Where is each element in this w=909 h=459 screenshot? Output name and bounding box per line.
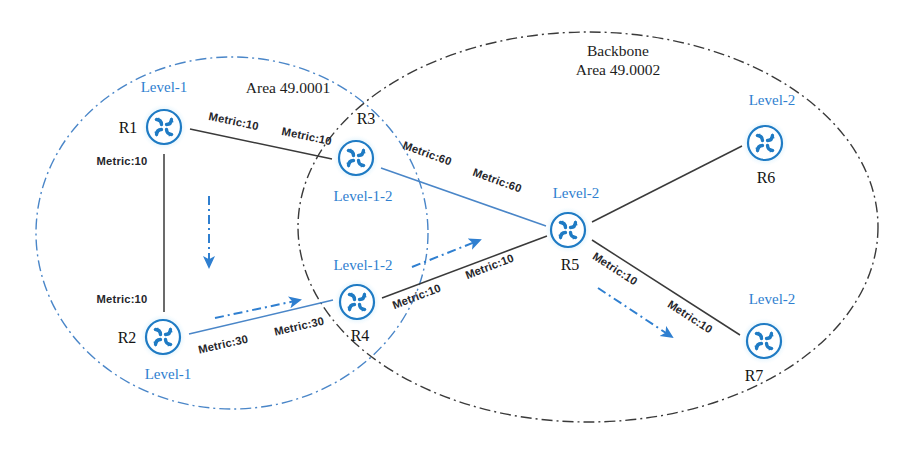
router-level-r2: Level-1 bbox=[145, 366, 192, 382]
router-icon-r5 bbox=[551, 213, 585, 247]
area-label-line: Backbone bbox=[587, 42, 649, 59]
router-node-r3[interactable] bbox=[333, 135, 379, 181]
router-icon-r2 bbox=[146, 320, 180, 354]
router-nodes bbox=[140, 104, 788, 364]
router-name-r7: R7 bbox=[745, 367, 764, 384]
router-node-r7[interactable] bbox=[741, 318, 787, 364]
router-level-r3: Level-1-2 bbox=[333, 188, 392, 204]
router-node-r2[interactable] bbox=[140, 314, 186, 360]
link-r5-r6 bbox=[592, 146, 742, 222]
router-icon-r1 bbox=[147, 110, 181, 144]
router-icon-r7 bbox=[747, 324, 781, 358]
router-node-r1[interactable] bbox=[141, 104, 187, 150]
metric-r4-r5-near-r4: Metric:10 bbox=[391, 282, 443, 311]
metric-r2-r4-near-r2: Metric:30 bbox=[197, 333, 249, 356]
router-name-r5: R5 bbox=[561, 256, 580, 273]
metric-r1-r3-near-r1: Metric:10 bbox=[208, 110, 260, 132]
router-name-r2: R2 bbox=[118, 329, 137, 346]
router-level-r7: Level-2 bbox=[749, 291, 796, 307]
router-level-r6: Level-2 bbox=[749, 92, 796, 108]
area-label-area-49-0002: BackboneArea 49.0002 bbox=[576, 42, 660, 78]
link-r5-r7 bbox=[592, 240, 740, 335]
router-icon-r6 bbox=[748, 126, 782, 160]
router-node-r6[interactable] bbox=[742, 120, 788, 166]
text-labels: Area 49.0001BackboneArea 49.0002R1Level-… bbox=[97, 42, 796, 384]
metric-r1-r2-bottom: Metric:10 bbox=[97, 293, 148, 305]
link-r3-r5 bbox=[381, 168, 546, 226]
router-icon-r3 bbox=[339, 141, 373, 175]
metric-r3-r5-near-r5: Metric:60 bbox=[471, 166, 523, 195]
router-links bbox=[164, 129, 742, 335]
diagram-canvas: Area 49.0001BackboneArea 49.0002R1Level-… bbox=[0, 0, 909, 459]
router-level-r5: Level-2 bbox=[553, 185, 600, 201]
metric-r4-r5-near-r5: Metric:10 bbox=[464, 252, 516, 281]
link-r4-r5 bbox=[382, 236, 547, 298]
router-node-r5[interactable] bbox=[545, 207, 591, 253]
router-icon-r4 bbox=[340, 285, 374, 319]
metric-r1-r3-near-r3: Metric:10 bbox=[281, 125, 333, 147]
router-node-r4[interactable] bbox=[334, 279, 380, 325]
area-label-area-49-0001: Area 49.0001 bbox=[246, 79, 330, 96]
router-level-r1: Level-1 bbox=[141, 79, 188, 95]
flow-r5-to-r7-icon bbox=[598, 288, 672, 337]
metric-r1-r2-top: Metric:10 bbox=[97, 155, 148, 167]
flow-r2-to-r4-icon bbox=[215, 300, 300, 318]
network-diagram: Area 49.0001BackboneArea 49.0002R1Level-… bbox=[0, 0, 909, 459]
metric-r2-r4-near-r4: Metric:30 bbox=[273, 315, 325, 338]
area-label-line: Area 49.0001 bbox=[246, 79, 330, 96]
metric-r3-r5-near-r3: Metric:60 bbox=[401, 139, 453, 168]
area-label-line: Area 49.0002 bbox=[576, 61, 660, 78]
router-name-r1: R1 bbox=[119, 119, 138, 136]
router-name-r3: R3 bbox=[357, 110, 376, 127]
router-name-r4: R4 bbox=[351, 327, 370, 344]
router-level-r4: Level-1-2 bbox=[333, 257, 392, 273]
flow-r4-to-r5-icon bbox=[412, 240, 480, 267]
router-name-r6: R6 bbox=[757, 169, 776, 186]
